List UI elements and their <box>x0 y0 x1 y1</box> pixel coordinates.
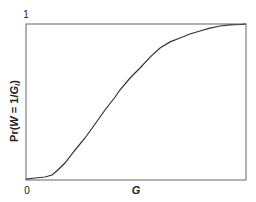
y-label-prefix: Pr( <box>8 126 20 142</box>
x-tick-0: 0 <box>24 185 30 196</box>
y-axis-label: Pr(W = 1/Gi) <box>8 80 22 142</box>
x-axis-label: G <box>132 184 141 196</box>
plot-frame <box>26 24 246 180</box>
y-label-mid: = 1/ <box>8 95 20 117</box>
y-label-suffix: ) <box>8 80 20 84</box>
chart: 1 0 G Pr(W = 1/Gi) <box>0 0 256 202</box>
y-tick-1: 1 <box>23 9 29 20</box>
data-line <box>26 24 246 179</box>
